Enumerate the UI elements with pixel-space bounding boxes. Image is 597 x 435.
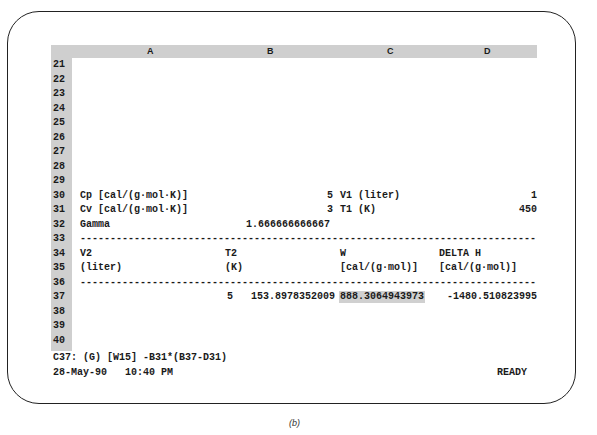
cell-d35[interactable]: [cal/(g·mol)]: [439, 262, 517, 274]
row-number-33[interactable]: 33: [53, 233, 65, 245]
cell-c31[interactable]: T1 (K): [340, 204, 376, 216]
row-number-35[interactable]: 35: [53, 262, 65, 274]
row-number-29[interactable]: 29: [53, 175, 65, 187]
cell-c37-selected[interactable]: 888.3064943973: [339, 291, 425, 303]
row-number-40[interactable]: 40: [53, 335, 65, 347]
cell-d30[interactable]: 1: [451, 190, 537, 202]
cell-c30[interactable]: V1 (liter): [340, 190, 400, 202]
cell-c34[interactable]: W: [340, 248, 346, 260]
mode-indicator: READY: [497, 367, 527, 379]
column-header-b[interactable]: B: [267, 45, 274, 58]
cell-b31[interactable]: 3: [251, 204, 333, 216]
cell-a30[interactable]: Cp [cal/(g·mol·K)]: [80, 190, 188, 202]
cell-d31[interactable]: 450: [451, 204, 537, 216]
row-number-36[interactable]: 36: [53, 277, 65, 289]
row-number-21[interactable]: 21: [53, 59, 65, 71]
row-number-31[interactable]: 31: [53, 204, 65, 216]
row-number-22[interactable]: 22: [53, 74, 65, 86]
cell-a31[interactable]: Cv [cal/(g·mol·K)]: [80, 204, 188, 216]
column-header-a[interactable]: A: [147, 45, 154, 58]
cell-k-label[interactable]: (K): [225, 262, 243, 274]
row-number-23[interactable]: 23: [53, 88, 65, 100]
figure-caption: (b): [289, 418, 300, 428]
row-number-24[interactable]: 24: [53, 103, 65, 115]
cell-d34[interactable]: DELTA H: [439, 248, 481, 260]
cell-b32[interactable]: 1.666666666667: [246, 219, 330, 231]
row-number-28[interactable]: 28: [53, 161, 65, 173]
column-header-bar: A B C D: [51, 45, 537, 58]
cell-t2-label[interactable]: T2: [225, 248, 237, 260]
cell-b37[interactable]: 153.8978352009: [241, 291, 335, 303]
datetime-status: 28-May-90 10:40 PM: [53, 367, 173, 379]
row-number-25[interactable]: 25: [53, 117, 65, 129]
row-number-38[interactable]: 38: [53, 306, 65, 318]
cell-a35[interactable]: (liter): [80, 262, 122, 274]
row-number-27[interactable]: 27: [53, 146, 65, 158]
row-number-30[interactable]: 30: [53, 190, 65, 202]
row-number-32[interactable]: 32: [53, 219, 65, 231]
separator-row-33: ----------------------------------------…: [80, 233, 537, 245]
cell-a32[interactable]: Gamma: [80, 219, 110, 231]
row-number-34[interactable]: 34: [53, 248, 65, 260]
cell-a37[interactable]: 5: [151, 291, 233, 303]
column-header-c[interactable]: C: [387, 45, 394, 58]
cell-c35[interactable]: [cal/(g·mol)]: [340, 262, 418, 274]
cell-formula-status: C37: (G) [W15] -B31*(B37-D31): [53, 352, 227, 364]
row-number-37[interactable]: 37: [53, 291, 65, 303]
cell-a34[interactable]: V2: [80, 248, 92, 260]
row-number-26[interactable]: 26: [53, 132, 65, 144]
row-number-39[interactable]: 39: [53, 320, 65, 332]
cell-b30[interactable]: 5: [251, 190, 333, 202]
column-header-d[interactable]: D: [484, 45, 491, 58]
separator-row-36: ----------------------------------------…: [80, 277, 537, 289]
cell-d37[interactable]: -1480.510823995: [431, 291, 537, 303]
